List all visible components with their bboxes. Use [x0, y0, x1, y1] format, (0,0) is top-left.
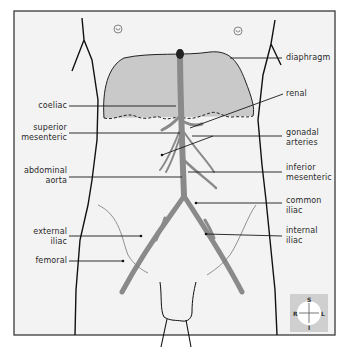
label-text: iliac — [286, 236, 346, 246]
label-text: aorta — [10, 176, 67, 186]
label-text: arteries — [286, 138, 346, 148]
label-text: gonadal — [286, 128, 346, 138]
label-text: renal — [286, 89, 307, 98]
label-renal: renal — [286, 89, 346, 99]
compass-superior: S — [307, 296, 311, 303]
label-text: diaphragm — [286, 53, 330, 62]
label-text: inferior — [286, 163, 346, 173]
label-text: common — [286, 196, 346, 206]
label-diaphragm: diaphragm — [286, 53, 346, 63]
label-text: coeliac — [38, 101, 67, 110]
label-text: internal — [286, 226, 346, 236]
compass-left: L — [321, 310, 325, 317]
label-inferior-mesenteric: inferior mesenteric — [286, 163, 346, 183]
label-abdominal-aorta: abdominal aorta — [10, 166, 67, 186]
label-text: femoral — [35, 256, 67, 265]
label-text: mesenteric — [10, 133, 67, 143]
label-common-iliac: common iliac — [286, 196, 346, 216]
compass-inferior: I — [308, 324, 310, 331]
label-text: external — [10, 227, 67, 237]
label-text: mesenteric — [286, 173, 346, 183]
label-femoral: femoral — [10, 256, 67, 266]
label-gonadal-arteries: gonadal arteries — [286, 128, 346, 148]
label-coeliac: coeliac — [10, 101, 67, 111]
label-text: iliac — [10, 237, 67, 247]
label-text: abdominal — [10, 166, 67, 176]
label-text: superior — [10, 123, 67, 133]
label-superior-mesenteric: superior mesenteric — [10, 123, 67, 143]
label-text: iliac — [286, 206, 346, 216]
label-external-iliac: external iliac — [10, 227, 67, 247]
aorta-top — [176, 49, 184, 59]
compass-right: R — [293, 310, 298, 317]
label-internal-iliac: internal iliac — [286, 226, 346, 246]
